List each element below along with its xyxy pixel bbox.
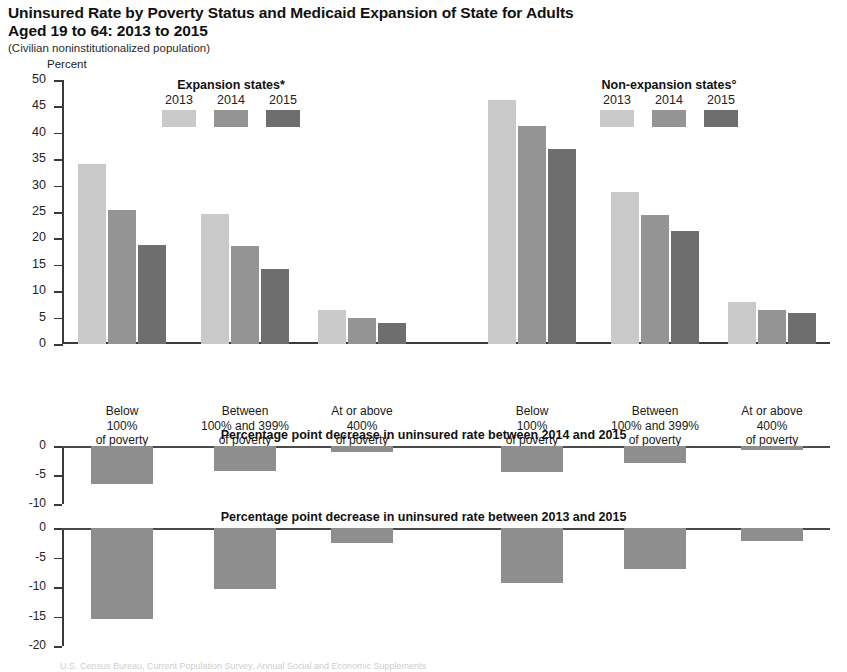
legend-non-expansion-states: Non-expansion states° 2013 2014 2015 (598, 78, 740, 127)
y-axis-tick-label: 20 (12, 230, 46, 244)
bar-2015 (378, 323, 406, 344)
legend-expansion-states: Expansion states* 2013 2014 2015 (160, 78, 302, 127)
bar-group (318, 80, 406, 344)
legend-year-label: 2014 (650, 93, 688, 108)
subpanel-bar (91, 446, 153, 484)
bar-2013 (488, 100, 516, 344)
subpanel-zero-line (62, 446, 830, 448)
bar-2014 (518, 126, 546, 344)
bar-2014 (758, 310, 786, 344)
category-label-line: At or above (702, 404, 842, 419)
legend-item: 2015 (264, 93, 302, 127)
category-label-line: At or above (292, 404, 432, 419)
legend-title: Expansion states* (160, 78, 302, 92)
subpanel-y-tick (54, 475, 62, 477)
chart-subtitle: (Civilian noninstitutionalized populatio… (8, 41, 708, 56)
subpanel-plot: 0-5-10 (62, 446, 830, 504)
bar-group (488, 80, 576, 344)
y-axis-tick-label: 40 (12, 125, 46, 139)
bar-2013 (318, 310, 346, 344)
legend-swatch-2014 (652, 110, 686, 127)
legend-item: 2014 (650, 93, 688, 127)
subpanel-title: Percentage point decrease in uninsured r… (0, 428, 847, 442)
legend-swatch-2014 (214, 110, 248, 127)
legend-year-label: 2015 (702, 93, 740, 108)
subpanel-title: Percentage point decrease in uninsured r… (0, 510, 847, 524)
y-axis-tick-label: 10 (12, 283, 46, 297)
category-label-line: Below (52, 404, 192, 419)
footer-text: U.S. Census Bureau, Current Population S… (60, 661, 820, 671)
subpanel-bar (624, 446, 686, 463)
bar-2013 (728, 302, 756, 344)
main-chart-panel: Percent 50454035302520151050 Expansion s… (0, 58, 847, 358)
bar-2015 (261, 269, 289, 344)
subpanel-bar (214, 528, 276, 589)
subpanel-zero-line (62, 528, 830, 530)
legend-entries: 2013 2014 2015 (160, 93, 302, 127)
subpanel-bar (214, 446, 276, 471)
y-axis-tick-label: 5 (12, 310, 46, 324)
subpanel-y-tick (54, 587, 62, 589)
legend-swatch-2015 (266, 110, 300, 127)
bar-group (78, 80, 166, 344)
bar-2014 (348, 318, 376, 344)
subpanel-y-tick (54, 617, 62, 619)
bar-2015 (548, 149, 576, 344)
bar-2014 (641, 215, 669, 344)
y-axis-tick-label: 25 (12, 204, 46, 218)
subpanel-y-tick-label: -5 (12, 467, 46, 481)
chart-figure: Uninsured Rate by Poverty Status and Med… (0, 0, 847, 672)
subpanel-bar (624, 528, 686, 569)
subpanel-plot: 0-5-10-15-20 (62, 528, 830, 646)
bar-2015 (788, 313, 816, 344)
category-label-line: Below (462, 404, 602, 419)
subpanel-y-tick-label: -10 (12, 579, 46, 593)
subpanel-y-tick-label: -20 (12, 638, 46, 652)
legend-year-label: 2014 (212, 93, 250, 108)
subpanel-2013-2015: Percentage point decrease in uninsured r… (0, 510, 847, 655)
chart-title-line-1: Uninsured Rate by Poverty Status and Med… (8, 4, 708, 22)
bar-2014 (231, 246, 259, 344)
y-axis-tick-label: 35 (12, 151, 46, 165)
subpanel-bar (741, 528, 803, 541)
bar-2015 (671, 231, 699, 344)
subpanel-y-tick (54, 558, 62, 560)
bar-group (728, 80, 816, 344)
legend-swatch-2013 (600, 110, 634, 127)
footer-source-fragment: U.S. Census Bureau, Current Population S… (60, 661, 820, 669)
subpanel-bar (331, 446, 393, 452)
subpanel-bar (501, 446, 563, 472)
bar-2015 (138, 245, 166, 344)
legend-swatch-2015 (704, 110, 738, 127)
legend-year-label: 2013 (160, 93, 198, 108)
subpanel-y-tick-label: -5 (12, 550, 46, 564)
y-axis-tick-label: 45 (12, 98, 46, 112)
y-axis-tick-label: 30 (12, 178, 46, 192)
legend-title: Non-expansion states° (598, 78, 740, 92)
subpanel-y-tick-label: -10 (12, 496, 46, 510)
bar-2013 (201, 214, 229, 344)
subpanel-y-axis-line (62, 446, 64, 504)
subpanel-y-tick (54, 528, 62, 530)
y-axis-tick (54, 344, 63, 346)
subpanel-y-tick (54, 646, 62, 648)
subpanel-bar (741, 446, 803, 450)
subpanel-y-tick-label: -15 (12, 609, 46, 623)
legend-entries: 2013 2014 2015 (598, 93, 740, 127)
legend-item: 2013 (160, 93, 198, 127)
subpanel-y-axis-line (62, 528, 64, 646)
bar-2013 (78, 164, 106, 344)
legend-year-label: 2015 (264, 93, 302, 108)
chart-title-line-2: Aged 19 to 64: 2013 to 2015 (8, 22, 708, 40)
legend-item: 2015 (702, 93, 740, 127)
y-axis-tick-label: 0 (12, 336, 46, 350)
y-axis-label: Percent (47, 58, 87, 70)
subpanel-y-tick (54, 504, 62, 506)
legend-year-label: 2013 (598, 93, 636, 108)
subpanel-bar (501, 528, 563, 583)
legend-item: 2014 (212, 93, 250, 127)
subpanel-2014-2015: Percentage point decrease in uninsured r… (0, 428, 847, 508)
subpanel-bar (331, 528, 393, 543)
title-block: Uninsured Rate by Poverty Status and Med… (8, 4, 708, 56)
subpanel-y-tick-label: 0 (12, 438, 46, 452)
